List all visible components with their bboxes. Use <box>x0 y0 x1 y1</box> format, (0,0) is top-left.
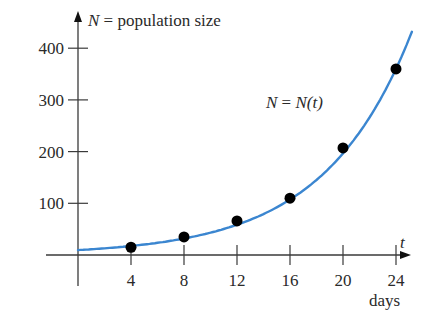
y-tick-label: 200 <box>39 143 65 162</box>
data-point <box>391 63 402 74</box>
y-tick-label: 400 <box>39 39 65 58</box>
y-tick-label: 100 <box>39 194 65 213</box>
x-tick-label: 24 <box>388 271 406 290</box>
data-point <box>285 193 296 204</box>
curve-label: N = N(t) <box>265 93 323 112</box>
x-tick-label: 4 <box>127 271 136 290</box>
x-axis-unit: days <box>369 291 400 310</box>
data-point <box>126 242 137 253</box>
data-points <box>126 63 402 252</box>
curve-path <box>78 32 412 250</box>
data-point <box>179 231 190 242</box>
x-tick-label: 16 <box>282 271 299 290</box>
y-axis-arrow-icon <box>74 11 82 22</box>
axis-labels: N = population size N = N(t) t days <box>87 11 406 310</box>
x-axis-variable: t <box>400 233 406 252</box>
data-point <box>338 142 349 153</box>
population-growth-chart: 1002003004004812162024 N = population si… <box>0 0 431 330</box>
x-axis-arrow-icon <box>400 251 411 259</box>
y-axis-label: N = population size <box>87 11 221 30</box>
y-tick-label: 300 <box>39 91 65 110</box>
data-point <box>232 215 243 226</box>
growth-curve <box>78 32 412 250</box>
x-tick-label: 12 <box>229 271 246 290</box>
x-tick-label: 8 <box>180 271 189 290</box>
x-tick-label: 20 <box>335 271 352 290</box>
